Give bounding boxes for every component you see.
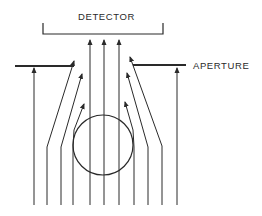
- detector-bracket: [43, 23, 163, 34]
- detector-label: DETECTOR: [78, 11, 135, 22]
- field-line-right-2: [130, 57, 162, 205]
- detector-bracket-shape: [43, 23, 163, 34]
- field-lines-diagram: [0, 0, 262, 216]
- aperture-label: APERTURE: [193, 60, 249, 71]
- object-circle: [73, 115, 133, 175]
- field-line-right-4: [125, 102, 134, 205]
- object-circle-shape: [73, 115, 133, 175]
- aperture-plates: [15, 65, 186, 66]
- field-line-right-3: [127, 73, 148, 205]
